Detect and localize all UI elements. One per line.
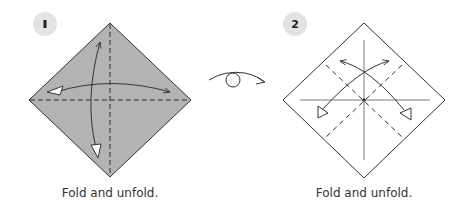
step-2-caption: Fold and unfold. <box>316 186 413 200</box>
step-1-number-glyph <box>44 20 47 28</box>
center-point <box>362 98 366 102</box>
origami-diagram: 2 <box>0 0 466 204</box>
step-2: 2 <box>283 12 445 178</box>
step-1 <box>29 12 191 177</box>
turn-over-icon <box>209 72 265 87</box>
step-1-caption: Fold and unfold. <box>62 186 159 200</box>
step-2-number-glyph: 2 <box>291 18 299 31</box>
